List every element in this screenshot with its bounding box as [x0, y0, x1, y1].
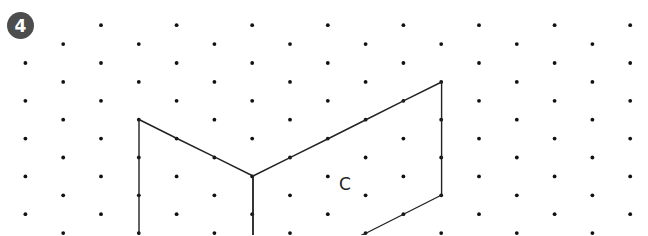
grid-dot [591, 42, 595, 46]
grid-dot [553, 23, 557, 27]
grid-dot [515, 42, 519, 46]
grid-dot [477, 212, 481, 216]
grid-dot [515, 231, 519, 235]
grid-dot [628, 175, 632, 179]
grid-dot [326, 99, 330, 103]
grid-dot [628, 23, 632, 27]
grid-dot [439, 231, 443, 235]
grid-dot [477, 99, 481, 103]
grid-dot [439, 42, 443, 46]
dot-grid-diagram [0, 0, 648, 235]
grid-dot [250, 61, 254, 65]
grid-dot [61, 118, 65, 122]
grid-dot [175, 23, 179, 27]
grid-dot [250, 23, 254, 27]
grid-dot [591, 231, 595, 235]
grid-dot [326, 212, 330, 216]
grid-dot [213, 42, 217, 46]
grid-dot [288, 42, 292, 46]
grid-dot [364, 156, 368, 160]
grid-dot [628, 61, 632, 65]
grid-dot [61, 156, 65, 160]
grid-dot [213, 193, 217, 197]
grid-dot [175, 61, 179, 65]
grid-dot [137, 80, 141, 84]
grid-dot [175, 175, 179, 179]
grid-dot [24, 175, 28, 179]
grid-dot [553, 175, 557, 179]
grid-dot [591, 118, 595, 122]
grid-dot [175, 212, 179, 216]
grid-dot [137, 42, 141, 46]
grid-dot [99, 99, 103, 103]
grid-dot [515, 80, 519, 84]
grid-dot [477, 137, 481, 141]
grid-dot [553, 137, 557, 141]
grid-dot [553, 99, 557, 103]
grid-dot [213, 118, 217, 122]
grid-dot [326, 23, 330, 27]
grid-dot [99, 137, 103, 141]
grid-dot [553, 212, 557, 216]
grid-dot [477, 175, 481, 179]
grid-dot [364, 193, 368, 197]
grid-dot [402, 61, 406, 65]
grid-dot [364, 80, 368, 84]
shape-c-outline [253, 82, 442, 235]
grid-dot [628, 212, 632, 216]
grid-dot [175, 99, 179, 103]
grid-dot [591, 193, 595, 197]
grid-dot [402, 137, 406, 141]
grid-dot [61, 193, 65, 197]
left-shape-outline [139, 120, 253, 236]
grid-dot [99, 175, 103, 179]
exercise-number-badge: 4 [7, 12, 34, 39]
grid-dot [250, 137, 254, 141]
grid-dot [515, 156, 519, 160]
shape-c-label: C [339, 174, 351, 194]
grid-dot [61, 80, 65, 84]
grid-dot [61, 231, 65, 235]
grid-dot [477, 61, 481, 65]
grid-dot [628, 99, 632, 103]
grid-dot [250, 99, 254, 103]
grid-dot [402, 175, 406, 179]
grid-dot [24, 99, 28, 103]
grid-dot [288, 193, 292, 197]
isometric-dot-grid [24, 23, 633, 235]
grid-dot [477, 23, 481, 27]
grid-dot [326, 175, 330, 179]
grid-dot [288, 118, 292, 122]
grid-dot [24, 212, 28, 216]
exercise-number: 4 [15, 16, 27, 36]
grid-dot [99, 61, 103, 65]
grid-dot [24, 137, 28, 141]
grid-dot [628, 137, 632, 141]
grid-dot [553, 61, 557, 65]
grid-dot [326, 61, 330, 65]
grid-dot [99, 23, 103, 27]
grid-dot [213, 80, 217, 84]
grid-dot [61, 42, 65, 46]
grid-dot [24, 61, 28, 65]
grid-dot [591, 156, 595, 160]
grid-dot [288, 80, 292, 84]
grid-dot [591, 80, 595, 84]
grid-dot [364, 42, 368, 46]
grid-dot [288, 231, 292, 235]
grid-dot [515, 193, 519, 197]
grid-dot [402, 23, 406, 27]
grid-dot [515, 118, 519, 122]
grid-dot [99, 212, 103, 216]
grid-dot [213, 231, 217, 235]
